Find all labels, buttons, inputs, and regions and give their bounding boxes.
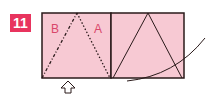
label-b: B (51, 22, 59, 36)
push-up-arrow-icon (61, 81, 75, 93)
label-a: A (94, 22, 102, 36)
paper-right-panel (111, 13, 184, 78)
folding-diagram: B A (0, 0, 207, 94)
